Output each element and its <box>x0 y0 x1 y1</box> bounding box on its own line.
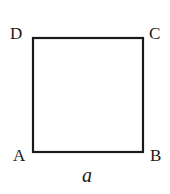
vertex-label-d: D <box>10 24 22 43</box>
vertex-label-c: C <box>149 24 160 43</box>
square-abcd <box>33 38 143 152</box>
square-diagram: D C A B a <box>0 0 170 194</box>
side-length-label: a <box>82 164 92 186</box>
vertex-label-a: A <box>13 146 26 165</box>
diagram-canvas: D C A B a <box>0 0 170 194</box>
vertex-label-b: B <box>150 146 161 165</box>
